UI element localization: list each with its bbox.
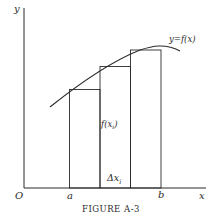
rect-width-label-sub: i (119, 178, 121, 186)
figure-caption: FIGURE A-3 (82, 204, 140, 214)
rect-width-label: Δxi (106, 172, 121, 186)
rect-height-label-close: ) (113, 119, 117, 129)
tick-label-a: a (67, 190, 73, 201)
rect-height-label: f(xi) (100, 119, 118, 130)
rect-width-label-main: Δx (106, 172, 120, 183)
tick-label-b: b (158, 189, 164, 200)
curve-label: y=f(x) (168, 34, 196, 44)
y-axis-label: y (13, 3, 20, 14)
rectangle-1 (70, 90, 101, 189)
riemann-sum-diagram: y x O a b y=f(x) f(xi) Δxi FIGURE A-3 (0, 0, 216, 223)
origin-label: O (15, 190, 23, 201)
rectangle-3 (131, 50, 162, 188)
rect-height-label-main: f(x (100, 119, 112, 129)
x-axis-label: x (199, 190, 205, 201)
